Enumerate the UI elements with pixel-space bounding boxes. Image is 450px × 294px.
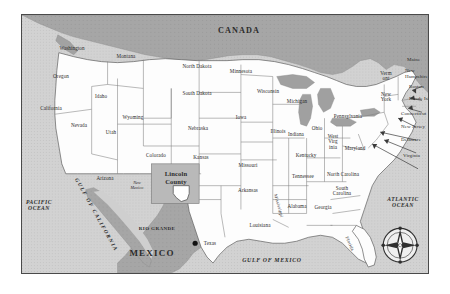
map-figure: CANADAMEXICOPACIFIC OCEANATLANTIC OCEANG… bbox=[21, 14, 429, 274]
map-graphics bbox=[22, 15, 428, 273]
lincoln-county-highlight-box bbox=[151, 164, 199, 204]
rio-grande-marker-dot bbox=[193, 241, 198, 246]
